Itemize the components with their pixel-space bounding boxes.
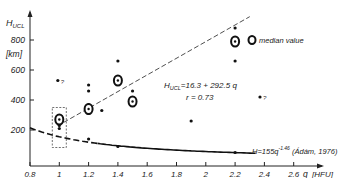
y-tick-label: 400 (11, 95, 25, 105)
adam-curve-label: H=155q-1.46 (Ádám, 1976) (252, 145, 338, 156)
median-center (87, 108, 89, 110)
data-point (87, 89, 90, 92)
correlation-label: r = 0.73 (186, 93, 214, 102)
x-axis-arrow-icon (317, 164, 324, 169)
data-point (56, 79, 59, 82)
legend-median-icon (249, 36, 256, 44)
data-point (100, 109, 103, 112)
y-tick-label: 600 (11, 65, 25, 75)
adam-curve-solid (97, 143, 255, 153)
x-tick-label: 1.2 (83, 170, 95, 178)
data-point (87, 83, 90, 86)
median-center (58, 118, 60, 120)
x-tick-label: 2.2 (229, 170, 242, 178)
median-center (131, 100, 133, 102)
y-tick-label: 200 (10, 125, 25, 135)
data-point (116, 145, 119, 148)
x-tick-label: 0.8 (24, 170, 36, 178)
x-axis-unit: [HFU] (311, 170, 334, 178)
y-tick-label: 800 (11, 35, 25, 45)
chart-canvas: 2004006008000.811.21.41.61.822.22.42.6HU… (0, 0, 340, 178)
data-point (258, 95, 261, 98)
legend-label: median value (259, 36, 304, 45)
regression-equation: HUCL=16.3 + 292.5 q (164, 81, 237, 91)
data-point (58, 127, 61, 130)
median-center (234, 40, 236, 42)
data-point (234, 59, 237, 62)
median-center (117, 79, 119, 81)
y-axis-title: HUCL (6, 18, 25, 29)
scatter-chart: 2004006008000.811.21.41.61.822.22.42.6HU… (0, 0, 340, 178)
x-axis-q-label: q (303, 169, 308, 178)
y-axis-unit: [km] (5, 49, 23, 59)
data-point (190, 119, 193, 122)
data-point (116, 59, 119, 62)
data-point (234, 151, 237, 154)
data-point (131, 89, 134, 92)
x-tick-label: 2 (203, 170, 209, 178)
question-mark-label: ? (263, 95, 267, 101)
question-mark-label: ? (61, 79, 65, 85)
data-points (55, 26, 261, 154)
data-point (87, 137, 90, 140)
x-tick-label: 1.4 (112, 170, 124, 178)
data-point (234, 26, 237, 29)
x-tick-label: 2.6 (287, 170, 300, 178)
x-tick-label: 1.6 (142, 170, 154, 178)
x-tick-label: 2.4 (258, 170, 271, 178)
x-tick-label: 1 (57, 170, 61, 178)
y-axis-arrow-icon (28, 10, 33, 17)
chart-labels: 2004006008000.811.21.41.61.822.22.42.6HU… (5, 18, 338, 178)
x-tick-label: 1.8 (171, 170, 183, 178)
adam-curve-dashed (30, 128, 97, 144)
